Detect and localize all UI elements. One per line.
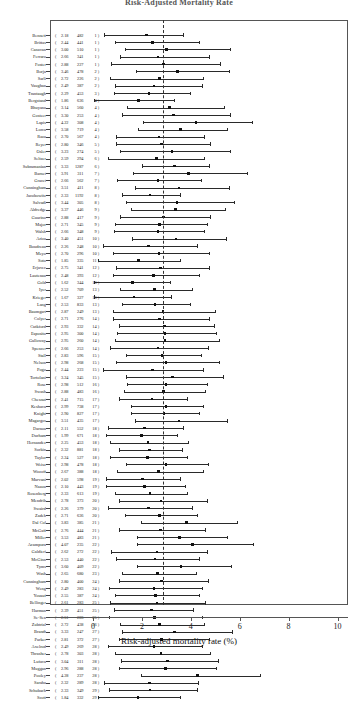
row-stats: (2.65 680 23 ) xyxy=(55,570,107,577)
ci-upper-cap xyxy=(203,470,204,473)
ci-upper-cap xyxy=(204,230,205,233)
row-stats: (2.98 268 15 ) xyxy=(55,359,107,366)
row-surgeon-label: Baumgart xyxy=(0,308,46,315)
row-rate-value: 2.32 xyxy=(56,446,68,453)
row-rate-value: 2.70 xyxy=(56,250,68,257)
point-estimate-marker xyxy=(176,201,179,204)
row-stats: (2.59 294 6 ) xyxy=(55,155,107,162)
ci-lower-cap xyxy=(94,281,95,284)
forest-row: Swaird(2.26 379 20 ) xyxy=(0,505,358,512)
row-volume-value: 441 xyxy=(70,39,84,46)
row-volume-value: 478 xyxy=(70,68,84,75)
row-rate-value: 2.26 xyxy=(56,505,68,512)
row-surgeon-label: Ferraro xyxy=(0,53,46,60)
point-estimate-marker xyxy=(163,325,166,328)
ci-upper-cap xyxy=(209,55,210,58)
row-axis-tick xyxy=(46,129,50,130)
row-axis-tick xyxy=(46,188,50,189)
row-rate-value: 2.52 xyxy=(56,286,68,293)
ci-upper-cap xyxy=(223,375,224,378)
point-estimate-marker xyxy=(154,303,157,306)
ci-upper-cap xyxy=(225,208,226,211)
row-axis-tick xyxy=(46,326,50,327)
ci-lower-cap xyxy=(116,135,117,138)
row-stats: (2.02 598 19 ) xyxy=(55,476,107,483)
forest-row: Yousuf(2.55 387 24 ) xyxy=(0,592,358,599)
ci-lower-cap xyxy=(122,303,123,306)
row-axis-tick xyxy=(46,632,50,633)
confidence-interval-line xyxy=(115,595,199,596)
row-stats: (2.24 527 18 ) xyxy=(55,454,107,461)
ci-lower-cap xyxy=(110,77,111,80)
x-tick-mark xyxy=(93,617,94,621)
row-volume-value: 227 xyxy=(70,61,84,68)
row-surgeon-label: Iyer xyxy=(0,286,46,293)
row-volume-value: 560 xyxy=(70,104,84,111)
ci-upper-cap xyxy=(180,193,181,196)
row-group-value: 4 xyxy=(85,112,97,119)
point-estimate-marker xyxy=(180,565,183,568)
row-rate-value: 2.32 xyxy=(56,679,68,686)
row-group-value: 4 xyxy=(85,126,97,133)
ci-lower-cap xyxy=(113,274,114,277)
row-stats: (2.49 387 2 ) xyxy=(55,82,107,89)
ci-upper-cap xyxy=(230,113,231,116)
ci-lower-cap xyxy=(108,426,109,429)
ci-lower-cap xyxy=(135,186,136,189)
row-volume-value: 335 xyxy=(70,257,84,264)
row-rate-value: 2.95 xyxy=(56,330,68,337)
row-rate-value: 2.80 xyxy=(56,141,68,148)
row-stats: (2.44 223 15 ) xyxy=(55,366,107,373)
forest-row: Vaughan(2.49 387 2 ) xyxy=(0,82,358,89)
forest-row: Thrasher(2.78 303 28 ) xyxy=(0,650,358,657)
confidence-interval-line xyxy=(122,115,230,116)
row-rate-value: 3.23 xyxy=(56,148,68,155)
ci-upper-cap xyxy=(202,587,203,590)
row-surgeon-label: Galloway xyxy=(0,337,46,344)
row-stats: (2.80 346 5 ) xyxy=(55,141,107,148)
row-volume-value: 482 xyxy=(70,32,84,39)
point-estimate-marker xyxy=(178,420,181,423)
ci-upper-cap xyxy=(237,521,238,524)
confidence-interval-line xyxy=(120,217,210,218)
point-estimate-marker xyxy=(151,398,154,401)
row-volume-value: 387 xyxy=(70,592,84,599)
row-volume-value: 438 xyxy=(70,621,84,628)
point-estimate-marker xyxy=(151,41,154,44)
row-rate-value: 2.99 xyxy=(56,403,68,410)
row-group-value: 4 xyxy=(85,104,97,111)
row-surgeon-label: Swash xyxy=(0,388,46,395)
ci-upper-cap xyxy=(209,252,210,255)
row-axis-tick xyxy=(46,406,50,407)
row-group-value: 1 xyxy=(85,32,97,39)
forest-row: Acampora(4.07 235 22 ) xyxy=(0,541,358,548)
ci-upper-cap xyxy=(199,594,200,597)
row-group-value: 21 xyxy=(85,534,97,541)
row-volume-value: 1192 xyxy=(70,192,84,199)
row-volume-value: 613 xyxy=(70,490,84,497)
row-surgeon-label: Durham xyxy=(0,432,46,439)
ci-lower-cap xyxy=(122,572,123,575)
row-stats: (4.22 308 4 ) xyxy=(55,119,107,126)
ci-lower-cap xyxy=(119,324,120,327)
row-axis-tick xyxy=(46,333,50,334)
row-volume-value: 296 xyxy=(70,250,84,257)
row-group-value: 2 xyxy=(85,75,97,82)
row-volume-value: 235 xyxy=(70,541,84,548)
confidence-interval-line xyxy=(114,93,190,94)
ci-lower-cap xyxy=(108,506,109,509)
row-group-value: 13 xyxy=(85,301,97,308)
x-tick-label: 4 xyxy=(189,622,193,631)
row-volume-value: 680 xyxy=(70,570,84,577)
forest-row: Iyer(2.52 709 13 ) xyxy=(0,286,358,293)
row-surgeon-label: Gosteer xyxy=(0,112,46,119)
ci-upper-cap xyxy=(209,266,210,269)
forest-row: Erjavec(2.75 341 12 ) xyxy=(0,264,358,271)
row-rate-value: 2.75 xyxy=(56,264,68,271)
row-rate-value: 2.66 xyxy=(56,228,68,235)
confidence-interval-line xyxy=(117,472,203,473)
row-volume-value: 247 xyxy=(70,628,84,635)
point-estimate-marker xyxy=(164,332,167,335)
row-rate-value: 2.70 xyxy=(56,133,68,140)
point-estimate-marker xyxy=(154,594,157,597)
